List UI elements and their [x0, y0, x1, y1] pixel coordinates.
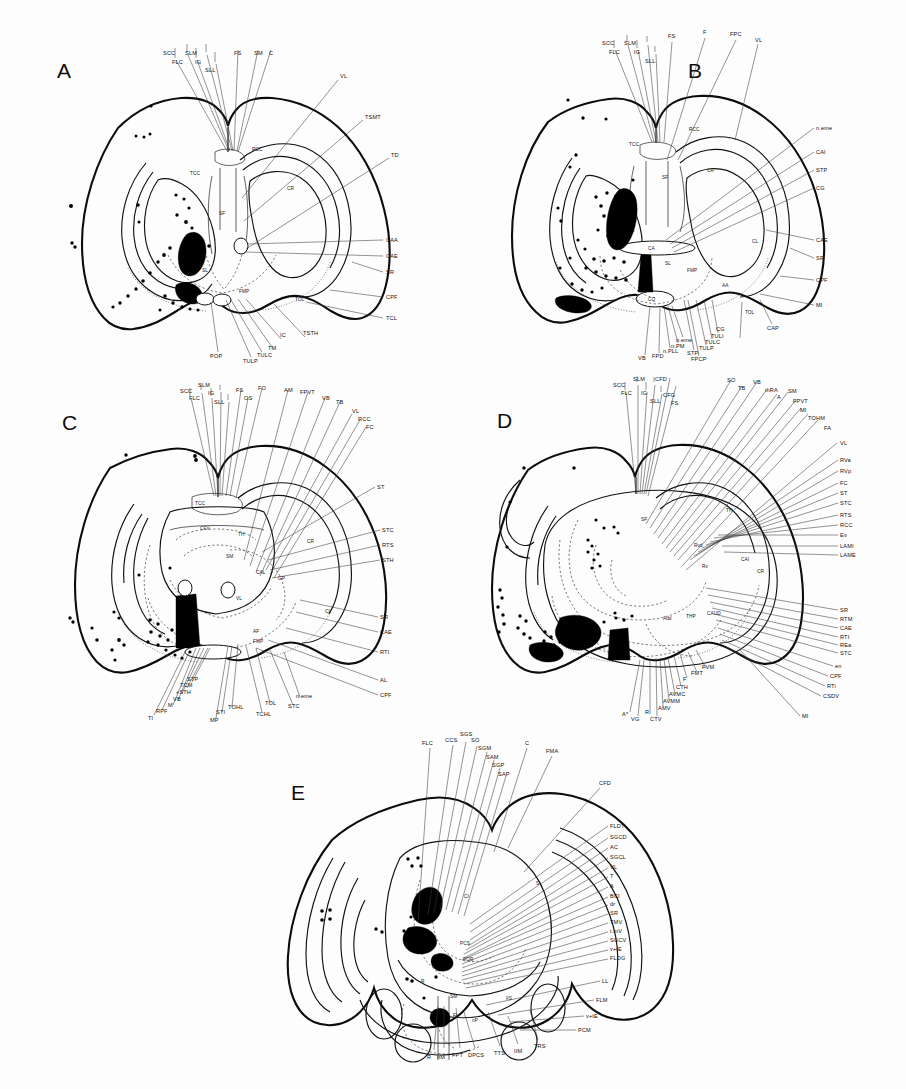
- label-a-sr: SR: [386, 269, 394, 275]
- label-d-cae: CAE: [840, 625, 852, 631]
- label-d-en: en: [835, 663, 842, 669]
- label-c-sth: STH: [382, 557, 394, 563]
- label-c-tol: TOL: [265, 700, 276, 706]
- leader-lines-e-top: [418, 742, 600, 922]
- label-c-tb: TB: [336, 399, 344, 405]
- label-e-nm: nM: [437, 1054, 445, 1060]
- label-d-amv: AMV: [658, 705, 671, 711]
- label-c-sr: SR: [380, 614, 388, 620]
- label-d-fpvt: FPVT: [793, 398, 808, 404]
- label-d-f: F: [683, 676, 687, 682]
- label-c-sll: SLL: [214, 399, 224, 405]
- hippo-inner-d: [506, 500, 534, 545]
- inner-outline-left2-c: [124, 514, 142, 583]
- label-b-tol: TOL: [745, 310, 755, 315]
- label-e-np: nP: [472, 1018, 478, 1023]
- label-e-flm: FLM: [596, 997, 608, 1003]
- label-c-fpvt: FPVT: [300, 389, 315, 395]
- stain-mass3-d: [529, 642, 563, 662]
- label-a-cpf: CPF: [386, 294, 398, 300]
- label-a-tsmt: TSMT: [365, 114, 381, 120]
- label-c-flc: FLC: [189, 395, 200, 401]
- panel-letter-c: C: [62, 411, 77, 434]
- label-e-flc: FLC: [422, 740, 433, 746]
- leader-lines-d-top: [625, 376, 818, 566]
- label-e-sam: SAM: [486, 754, 499, 760]
- label-d-sr: SR: [840, 607, 848, 613]
- label-a-tcl: TCL: [386, 315, 397, 321]
- label-a-caa: CAA: [386, 237, 398, 243]
- label-e-ccs: CCS: [445, 737, 457, 743]
- label-d-sm: SM: [788, 388, 797, 394]
- label-b-f: F: [703, 29, 707, 35]
- label-b-tcc: TCC: [629, 142, 639, 147]
- leader-lines-b-right: [666, 128, 814, 305]
- label-d-cth: CTH: [676, 684, 688, 690]
- label-a-tm: TM: [268, 345, 277, 351]
- label-e-fldt: FLDT: [610, 823, 625, 829]
- label-d-sf: SF: [641, 517, 647, 522]
- label-c-gp: GP: [278, 576, 285, 581]
- septum-lat-left-a: [208, 176, 212, 254]
- label-d-thp: THP: [686, 614, 696, 619]
- label-d-mi: MI: [800, 407, 807, 413]
- label-b-rcc: RCC: [689, 127, 700, 132]
- label-a-cr: CR: [287, 186, 294, 191]
- label-a-sf: SF: [219, 211, 225, 216]
- label-e-pcs: PCS: [460, 941, 470, 946]
- tcc-a: [215, 149, 245, 165]
- label-e-s: S: [536, 881, 539, 886]
- label-c-neme: n.eme: [296, 693, 312, 699]
- label-b-fpd: FPD: [652, 353, 664, 359]
- label-b-ig: IG: [634, 49, 640, 55]
- label-d-ig: IG: [641, 390, 647, 396]
- label-c-tcc-in: TCC: [195, 501, 205, 506]
- label-b-aa: AA: [722, 283, 729, 288]
- label-c-fs: FS: [236, 387, 244, 393]
- thalamus-dash2-c: [184, 545, 252, 556]
- inner-outline-left2-b: [562, 168, 586, 283]
- pons-outline-e: [360, 976, 558, 1043]
- label-c-mp: MP: [210, 717, 219, 723]
- label-d-slm: SLM: [633, 376, 645, 382]
- label-e-tmv: TMV: [610, 919, 622, 925]
- label-e-trs: TRS: [534, 1043, 546, 1049]
- label-b-tulc: TULC: [705, 339, 720, 345]
- label-d-fa: FA: [824, 425, 831, 431]
- label-b-vl: VL: [755, 37, 762, 43]
- label-a-sll: SLL: [205, 67, 215, 73]
- label-d-fc: FC: [840, 480, 848, 486]
- label-c-fmp: FMP: [253, 639, 263, 644]
- stain-mass3-b: [555, 296, 591, 313]
- label-e-ll: LL: [602, 978, 609, 984]
- label-a-tsth: TSTH: [303, 330, 318, 336]
- label-d-tb: TB: [738, 385, 746, 391]
- dien-dash3-d: [593, 545, 668, 606]
- label-e-r-in: R: [421, 979, 425, 984]
- thalamus-band-c: [170, 526, 264, 531]
- label-c-cpf: CPF: [380, 692, 392, 698]
- label-d-lami: LAMI: [840, 543, 854, 549]
- label-c-rti: RTI: [380, 649, 390, 655]
- label-c-fo: FO: [258, 385, 267, 391]
- label-e-sr: SR: [610, 910, 618, 916]
- label-e-cfd: CFD: [599, 780, 611, 786]
- label-b-fpc: FPC: [730, 31, 742, 37]
- label-d-sll: SLL: [650, 398, 660, 404]
- stain-mass-d: [555, 615, 601, 650]
- label-c-tohl: TOHL: [228, 704, 243, 710]
- label-c-tcm: TCM: [180, 682, 193, 688]
- label-e-ci: CI: [464, 894, 469, 899]
- cortex-inner-left4-e: [354, 900, 368, 982]
- label-e-vte2: v+tE: [586, 1013, 598, 1019]
- panel-letter-d: D: [497, 409, 512, 432]
- label-c-os: OS: [244, 395, 253, 401]
- label-b-sf: SF: [662, 175, 668, 180]
- label-d-astar: A*: [622, 711, 629, 717]
- label-d-rts: RTS: [840, 512, 852, 518]
- ventral-oval-left-e: [366, 989, 402, 1039]
- label-d-rv: Rv: [702, 564, 708, 569]
- label-b-cg2: CG: [716, 326, 725, 332]
- cortex-inner-right-e: [560, 828, 642, 1000]
- inner-outline-right-d: [656, 483, 769, 643]
